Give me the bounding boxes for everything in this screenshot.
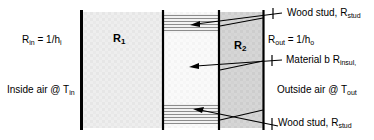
- region-label-r1: R1: [113, 33, 125, 44]
- label-outside-air: Outside air @ Tout: [277, 85, 357, 95]
- layer-r2-fill: [220, 12, 263, 128]
- wood-stud-band-bottom: [164, 104, 218, 124]
- label-inside-air: Inside air @ Tin: [7, 85, 75, 95]
- label-r-in: Rin = 1/hi: [22, 35, 62, 45]
- label-r-out: Rout = 1/ho: [268, 35, 314, 45]
- label-material-b: Material b Rinsul,: [286, 55, 356, 65]
- label-wood-stud-top: Wood stud, Rstud: [287, 8, 361, 18]
- label-wood-stud-bottom: Wood stud, Rstud: [278, 118, 352, 128]
- region-label-r2: R2: [234, 40, 246, 51]
- wall-resistance-diagram: Rin = 1/hi R1 R2 Inside air @ Tin Wood s…: [0, 0, 374, 140]
- layer-r1-fill: [83, 12, 162, 128]
- wood-stud-band-top: [164, 14, 218, 33]
